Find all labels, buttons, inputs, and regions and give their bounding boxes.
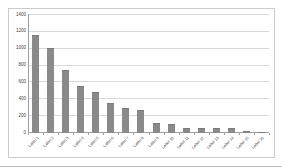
- bar: [77, 86, 84, 133]
- y-axis-line: [28, 14, 29, 132]
- y-tick-label: 800: [12, 62, 26, 67]
- x-axis-tick: [149, 133, 150, 135]
- x-axis-tick: [269, 133, 270, 135]
- y-tick-label: 1200: [12, 28, 26, 33]
- bar: [62, 70, 69, 133]
- bar: [243, 131, 250, 133]
- y-gridline: [28, 31, 269, 32]
- bar: [258, 132, 265, 134]
- y-tick-label: 600: [12, 79, 26, 84]
- x-axis-tick: [239, 133, 240, 135]
- y-tick-label: 1400: [12, 12, 26, 17]
- bar: [213, 128, 220, 133]
- bar: [228, 128, 235, 133]
- x-axis-tick: [179, 133, 180, 135]
- x-axis-tick: [224, 133, 225, 135]
- y-tick-label: 0: [12, 130, 26, 135]
- y-gridline: [28, 14, 269, 15]
- y-tick-label: 400: [12, 96, 26, 101]
- x-axis-tick: [73, 133, 74, 135]
- x-axis-tick: [118, 133, 119, 135]
- bar: [107, 103, 114, 134]
- y-tick-label: 1000: [12, 45, 26, 50]
- bar: [198, 128, 205, 133]
- y-tick-label: 200: [12, 113, 26, 118]
- bar: [137, 110, 144, 133]
- page-bottom-divider: [0, 166, 282, 167]
- page-root: 0200400600800100012001400Label 1Label 2L…: [0, 0, 282, 168]
- x-axis-tick: [133, 133, 134, 135]
- bar: [183, 128, 190, 133]
- chart-frame: 0200400600800100012001400Label 1Label 2L…: [8, 8, 275, 158]
- x-axis-tick: [194, 133, 195, 135]
- bar: [92, 92, 99, 133]
- x-axis-tick: [254, 133, 255, 135]
- y-gridline: [28, 65, 269, 66]
- y-gridline: [28, 48, 269, 49]
- bar: [168, 124, 175, 133]
- x-axis-tick: [209, 133, 210, 135]
- x-axis-tick: [164, 133, 165, 135]
- plot-area: 0200400600800100012001400Label 1Label 2L…: [9, 9, 274, 157]
- x-axis-tick: [58, 133, 59, 135]
- bar: [32, 35, 39, 133]
- bar: [153, 123, 160, 133]
- bar: [122, 108, 129, 133]
- bar: [47, 48, 54, 133]
- x-axis-tick: [103, 133, 104, 135]
- x-axis-tick: [28, 133, 29, 135]
- x-axis-tick: [88, 133, 89, 135]
- x-axis-tick: [43, 133, 44, 135]
